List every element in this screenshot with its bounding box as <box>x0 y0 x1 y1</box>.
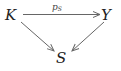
edge-label-ps: pS <box>52 3 62 12</box>
arrow-y-to-s <box>72 22 104 51</box>
arrow-k-to-s <box>21 22 54 51</box>
edge-label-subscript: S <box>58 5 62 12</box>
node-s: S <box>56 51 66 66</box>
node-y: Y <box>101 8 111 23</box>
node-k: K <box>5 8 16 23</box>
